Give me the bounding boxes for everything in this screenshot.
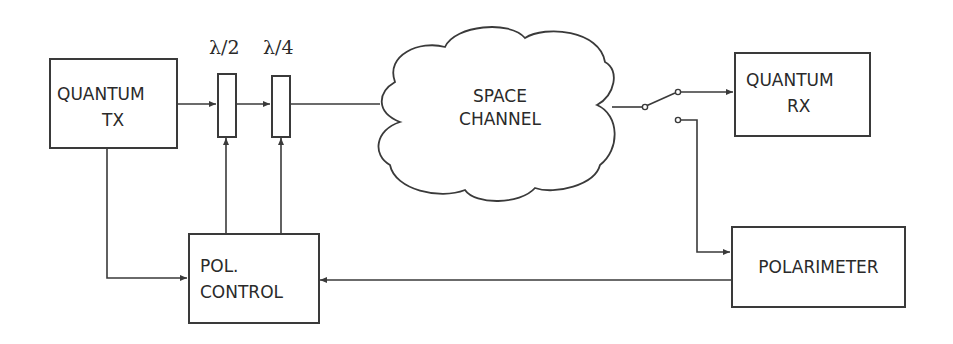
quantum-rx-label-line2: RX: [787, 94, 810, 118]
arrow-switch-to-polarimeter: [681, 120, 730, 252]
polarimeter-block: POLARIMETER: [731, 226, 906, 308]
half-wave-plate: [217, 73, 237, 138]
polarimeter-label: POLARIMETER: [758, 255, 878, 279]
quantum-rx-label-line1: QUANTUM: [746, 68, 834, 92]
switch-pivot-contact: [642, 104, 647, 109]
quantum-tx-label-line1: QUANTUM: [57, 82, 145, 106]
quarter-wave-plate-label: λ/4: [263, 36, 294, 58]
switch-blade: [646, 93, 675, 106]
space-channel-label-line1: SPACE: [430, 85, 570, 108]
pol-control-block: POL. CONTROL: [188, 233, 320, 324]
switch-rx-contact: [675, 89, 680, 94]
half-wave-plate-label: λ/2: [209, 36, 240, 58]
quantum-rx-block: QUANTUM RX: [734, 52, 871, 137]
pol-control-label-line1: POL.: [200, 254, 239, 278]
arrow-tx-to-pol-control: [107, 148, 187, 278]
quantum-tx-label-line2: TX: [102, 108, 124, 132]
space-channel-label-line2: CHANNEL: [430, 108, 570, 131]
switch-polarimeter-contact: [675, 117, 680, 122]
block-diagram: QUANTUM TX λ/2 λ/4 SPACE CHANNEL QUANTUM…: [0, 0, 953, 344]
quantum-tx-block: QUANTUM TX: [49, 58, 178, 149]
quarter-wave-plate: [271, 75, 291, 138]
space-channel-label: SPACE CHANNEL: [430, 85, 570, 131]
pol-control-label-line2: CONTROL: [200, 280, 283, 304]
